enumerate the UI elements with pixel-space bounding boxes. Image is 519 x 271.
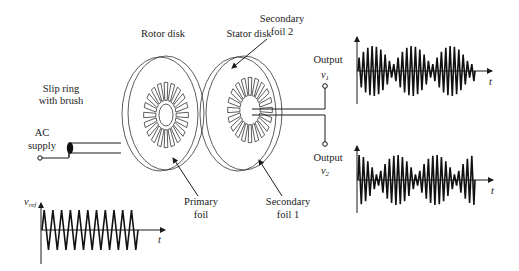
resolver-diagram: Rotor disk Stator disk Secondary foil 2 … xyxy=(0,0,519,271)
v1-plot: t xyxy=(357,37,493,104)
foil-slot xyxy=(171,87,181,104)
secondary-foil-1-label-line1: Secondary xyxy=(266,196,311,207)
brush-icon xyxy=(67,142,73,154)
stator-secondary-foil-spokes xyxy=(228,77,273,142)
foil-slot xyxy=(168,129,175,147)
rotor-disk-label: Rotor disk xyxy=(141,28,186,39)
foil-slot xyxy=(168,83,175,101)
foil-slot xyxy=(164,130,168,148)
primary-foil-leader xyxy=(173,158,198,196)
v2-t-label: t xyxy=(491,185,495,196)
foil-slot xyxy=(144,112,156,117)
foil-slot xyxy=(171,126,181,143)
ac-supply-label-line2: supply xyxy=(28,140,57,151)
foil-slot xyxy=(175,102,188,112)
output-v1-symbol: v1 xyxy=(321,69,329,82)
foil-slot xyxy=(235,82,245,99)
foil-slot xyxy=(144,118,157,128)
foil-slot xyxy=(241,78,248,96)
foil-slot xyxy=(151,126,161,143)
foil-slot xyxy=(259,113,272,123)
foil-slot xyxy=(228,113,241,123)
foil-slot xyxy=(248,125,252,143)
rotor-hub xyxy=(159,104,173,126)
secondary-foil-2-label-line1: Secondary xyxy=(260,13,305,24)
foil-slot xyxy=(252,78,259,96)
v1-t-label: t xyxy=(489,76,493,87)
ac-supply-label-line1: AC xyxy=(35,127,50,138)
foil-slot xyxy=(157,129,164,147)
foil-slot xyxy=(228,107,240,112)
rotor-primary-foil-spokes xyxy=(144,82,189,147)
vref-t-label: t xyxy=(158,234,162,245)
foil-slot xyxy=(176,112,188,117)
v2-waveform xyxy=(358,155,475,205)
foil-slot xyxy=(164,82,168,100)
foil-slot xyxy=(175,118,188,128)
v2-plot: t xyxy=(357,146,495,213)
v1-waveform xyxy=(358,46,475,96)
foil-slot xyxy=(144,102,157,112)
secondary-foil-2-label-line2: foil 2 xyxy=(271,26,293,37)
vref-axis-label: vref xyxy=(24,196,37,209)
foil-slot xyxy=(255,121,265,138)
foil-slot xyxy=(241,124,248,142)
secondary-foil-1-leader xyxy=(259,160,282,196)
output-v2-terminal xyxy=(323,142,328,147)
slip-ring-label-line2: with brush xyxy=(39,95,84,106)
foil-slot xyxy=(248,77,252,95)
stator-disk xyxy=(200,56,282,171)
foil-slot xyxy=(260,107,272,112)
primary-foil-label-line2: foil xyxy=(194,209,209,220)
foil-slot xyxy=(252,124,259,142)
secondary-foil-1-label-line2: foil 1 xyxy=(277,209,299,220)
foil-slot xyxy=(255,82,265,99)
output-v2-label: Output xyxy=(313,152,342,163)
foil-slot xyxy=(259,97,272,107)
primary-foil-label-line1: Primary xyxy=(184,196,219,207)
foil-slot xyxy=(151,87,161,104)
vref-plot: vref t xyxy=(24,196,165,264)
output-v1-terminal xyxy=(323,84,328,89)
secondary-foil-2-leader xyxy=(232,39,267,68)
slip-ring-label-line1: Slip ring xyxy=(43,83,80,94)
output-v1-label: Output xyxy=(313,54,342,65)
foil-slot xyxy=(157,83,164,101)
foil-slot xyxy=(235,121,245,138)
rotor-disk xyxy=(122,56,204,171)
output-v2-symbol: v2 xyxy=(321,165,330,178)
ac-terminal xyxy=(38,156,42,160)
stator-disk-label: Stator disk xyxy=(226,28,272,39)
foil-slot xyxy=(228,97,241,107)
